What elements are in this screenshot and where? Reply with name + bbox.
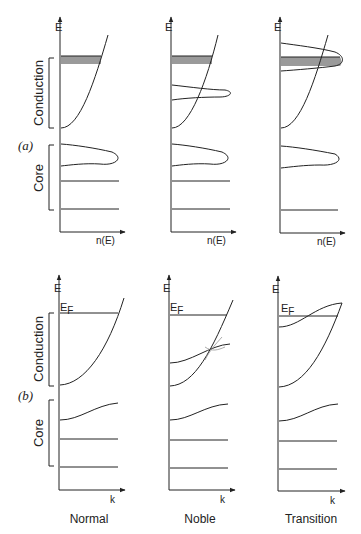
dos-plot-noble — [171, 17, 236, 232]
y-axis-label-transition-a: E — [274, 21, 281, 33]
dos-plot-normal — [60, 17, 125, 232]
core-bracket-a — [49, 145, 54, 210]
x-axis-label-normal-a: n(E) — [96, 235, 115, 246]
y-axis-label-noble-b: E — [163, 282, 170, 294]
core-label-a: Core — [31, 164, 46, 192]
y-axis-label-transition-b: E — [272, 283, 279, 295]
dos-plot-transition — [280, 17, 345, 233]
column-title-transition: Transition — [285, 512, 337, 526]
x-axis-label-transition-a: n(E) — [317, 236, 336, 247]
occupied-shade — [61, 56, 101, 64]
conduction-label-b: Conduction — [31, 316, 46, 382]
y-axis-label-noble-a: E — [165, 21, 172, 33]
x-axis-label-normal-b: k — [110, 494, 116, 505]
conduction-label-a: Conduction — [31, 60, 46, 126]
x-axis-label-transition-b: k — [330, 495, 336, 506]
fermi-label-transition: EF — [281, 302, 294, 317]
occupied-shade — [281, 57, 342, 66]
panel-a-label: (a) — [18, 138, 33, 153]
panel-b-label: (b) — [18, 388, 33, 403]
x-axis-label-noble-a: n(E) — [207, 235, 226, 246]
x-axis-label-noble-b: k — [220, 494, 226, 505]
y-axis-label-normal-b: E — [54, 282, 61, 294]
column-title-normal: Normal — [70, 512, 109, 526]
band-structure-diagram: (a) Conduction Core E n(E) E n(E) — [0, 0, 361, 534]
occupied-shade — [172, 56, 212, 64]
fermi-label-normal: EF — [60, 301, 73, 316]
column-title-noble: Noble — [184, 512, 216, 526]
conduction-bracket-a — [49, 58, 54, 128]
fermi-label-noble: EF — [170, 301, 183, 316]
core-bracket-b — [49, 400, 54, 466]
core-label-b: Core — [31, 419, 46, 447]
y-axis-label-normal-a: E — [55, 21, 62, 33]
conduction-bracket-b — [49, 313, 54, 386]
